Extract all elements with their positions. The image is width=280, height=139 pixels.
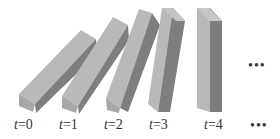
time-value: 0 <box>26 117 33 132</box>
label-t3: t=3 <box>149 117 168 133</box>
label-t2: t=2 <box>104 117 123 133</box>
domino-t4 <box>197 8 222 112</box>
time-value: 4 <box>216 117 223 132</box>
equals: = <box>208 117 216 132</box>
ellipsis-mid: ••• <box>248 58 266 74</box>
equals: = <box>153 117 161 132</box>
equals: = <box>108 117 116 132</box>
label-t1: t=1 <box>59 117 78 133</box>
domino-diagram: ••• t=0 t=1 t=2 t=3 t=4 ••• <box>0 0 280 139</box>
label-t4: t=4 <box>204 117 223 133</box>
label-t0: t=0 <box>14 117 33 133</box>
time-value: 3 <box>161 117 168 132</box>
equals: = <box>18 117 26 132</box>
domino-graphic <box>0 0 280 139</box>
time-value: 1 <box>71 117 78 132</box>
ellipsis-label: ••• <box>250 118 268 134</box>
time-value: 2 <box>116 117 123 132</box>
equals: = <box>63 117 71 132</box>
